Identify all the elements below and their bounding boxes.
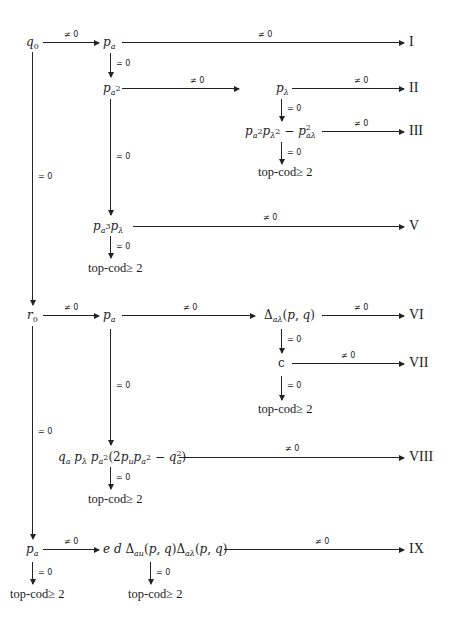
result-VII: VII (409, 356, 428, 370)
edge-label: ≠ 0 (285, 444, 299, 453)
node-c: c (278, 356, 285, 370)
result-III: III (409, 124, 423, 138)
edge-label: ≠ 0 (183, 303, 197, 312)
edge-label: ≠ 0 (263, 213, 277, 222)
edge-label: ≠ 0 (64, 303, 78, 312)
result-V: V (409, 219, 419, 233)
edge-label: = 0 (287, 148, 301, 157)
edge-qaexpr-topcod (110, 467, 111, 489)
edge-label: = 0 (38, 568, 52, 577)
edge-label: = 0 (116, 152, 130, 161)
terminal-topcod: top-cod≥ 2 (258, 165, 312, 179)
terminal-topcod: top-cod≥ 2 (88, 492, 142, 506)
edge-q0-r0 (32, 52, 33, 305)
edge-label: = 0 (287, 381, 301, 390)
node-pa2plambda2-minus: pa2pλ2 − p2aλ (245, 124, 316, 138)
edge-r0-pa (43, 315, 99, 316)
edge-label: ≠ 0 (354, 303, 368, 312)
edge-label: = 0 (116, 381, 130, 390)
node-pa2: pa2 (103, 81, 121, 95)
edge-plambda-II (292, 88, 404, 89)
edge-expr-III (322, 131, 404, 132)
edge-label: ≠ 0 (64, 30, 78, 39)
node-r0: r0 (27, 308, 38, 322)
edge-pabottom-eddelta (43, 549, 99, 550)
terminal-topcod: top-cod≥ 2 (10, 587, 64, 601)
edge-label: ≠ 0 (190, 76, 204, 85)
node-pa3plambda: pa3pλ (93, 219, 123, 233)
edge-eddelta-topcod (150, 562, 151, 584)
edge-label: ≠ 0 (315, 537, 329, 546)
node-pa-mid: pa (103, 308, 115, 322)
edge-label: = 0 (116, 473, 130, 482)
edge-label: = 0 (38, 172, 52, 181)
terminal-topcod: top-cod≥ 2 (128, 587, 182, 601)
edge-pa3plambda-topcod (110, 236, 111, 258)
result-VI: VI (409, 308, 424, 322)
edge-label: ≠ 0 (354, 119, 368, 128)
edge-delta-c (281, 329, 282, 353)
edge-label: ≠ 0 (64, 537, 78, 546)
node-qa-expr: qa pλ pa2(2pupa2 − q2a) (58, 450, 186, 464)
edge-plambda-expr (281, 99, 282, 121)
node-q0: q0 (26, 35, 39, 49)
edge-label: = 0 (287, 335, 301, 344)
edge-r0-pabottom (32, 326, 33, 539)
edge-pa-delta (122, 315, 255, 316)
node-pa: pa (103, 35, 115, 49)
node-plambda: pλ (276, 81, 289, 95)
edge-label: = 0 (38, 427, 52, 436)
edge-eddelta-IX (224, 549, 404, 550)
edge-label: = 0 (156, 568, 170, 577)
edge-pa2-plambda (122, 88, 239, 89)
edge-pabottom-topcod (32, 562, 33, 584)
terminal-topcod: top-cod≥ 2 (88, 261, 142, 275)
edge-pa3plambda-V (133, 226, 404, 227)
edge-pa2-pa3plambda (110, 99, 111, 215)
edge-label: ≠ 0 (341, 351, 355, 360)
edge-pa-qaexpr (110, 329, 111, 445)
terminal-topcod: top-cod≥ 2 (258, 402, 312, 416)
edge-qaexpr-VIII (179, 457, 404, 458)
result-VIII: VIII (409, 450, 433, 464)
edge-label: ≠ 0 (354, 76, 368, 85)
result-I: I (409, 35, 414, 49)
edge-expr-topcod (281, 142, 282, 164)
node-pa-bottom: pa (26, 542, 38, 556)
edge-q0-pa (43, 42, 99, 43)
result-II: II (409, 81, 418, 95)
edge-label: = 0 (116, 242, 130, 251)
edge-pa-pa2 (110, 53, 111, 77)
edge-pa-I (122, 42, 404, 43)
node-delta-alambda: Δaλ(p, q) (264, 308, 315, 322)
edge-label: = 0 (287, 104, 301, 113)
edge-c-topcod (281, 376, 282, 400)
edge-label: ≠ 0 (258, 30, 272, 39)
edge-delta-VI (322, 315, 404, 316)
node-eddelta: e d Δau(p, q)Δaλ(p, q) (103, 542, 227, 556)
edge-c-VII (292, 363, 404, 364)
result-IX: IX (409, 542, 424, 556)
edge-label: = 0 (116, 59, 130, 68)
